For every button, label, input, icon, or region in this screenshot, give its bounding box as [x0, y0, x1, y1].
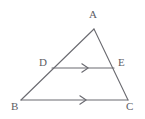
vertex-label-c: C — [126, 101, 133, 112]
geometry-figure: A B C D E — [0, 0, 145, 119]
vertex-label-d: D — [39, 57, 47, 68]
vertex-label-e: E — [118, 57, 125, 68]
vertex-label-b: B — [11, 101, 18, 112]
vertex-label-a: A — [89, 9, 97, 20]
